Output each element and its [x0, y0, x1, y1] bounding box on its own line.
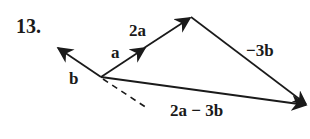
vector-b — [58, 48, 101, 77]
label-a: a — [111, 43, 120, 62]
vector-diagram: 13. a 2a b −3b 2a − 3b — [0, 0, 310, 139]
label-neg-3b: −3b — [246, 41, 274, 60]
vector-a — [101, 48, 145, 77]
vector-2a — [144, 18, 190, 48]
label-2a-minus-3b: 2a − 3b — [170, 101, 223, 120]
label-b: b — [69, 69, 78, 88]
label-2a: 2a — [129, 21, 147, 40]
problem-number: 13. — [16, 15, 41, 37]
dashed-neg-b-line — [103, 79, 147, 108]
